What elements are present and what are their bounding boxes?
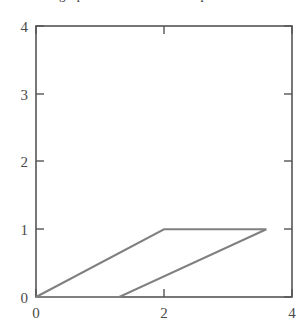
x-tick-label-4: 4 [288, 305, 296, 321]
x-axis-labels: 0 2 4 [32, 305, 296, 321]
x-tick-label-2: 2 [160, 305, 168, 321]
axes-frame [36, 26, 292, 297]
y-tick-label-2: 2 [21, 154, 29, 170]
y-tick-label-1: 1 [21, 222, 29, 238]
chart-page: graph of the convolution product [0, 0, 302, 329]
tick-marks [36, 26, 292, 297]
y-tick-label-3: 3 [21, 87, 29, 103]
x-tick-label-0: 0 [32, 305, 40, 321]
y-axis-labels: 0 1 2 3 4 [21, 19, 29, 306]
plot-box [36, 26, 292, 297]
convolution-curve [36, 229, 266, 297]
y-tick-label-4: 4 [21, 19, 29, 35]
data-series-group [36, 229, 266, 297]
convolution-plot: 0 2 4 0 1 2 3 4 [0, 0, 302, 329]
y-tick-label-0: 0 [21, 290, 29, 306]
